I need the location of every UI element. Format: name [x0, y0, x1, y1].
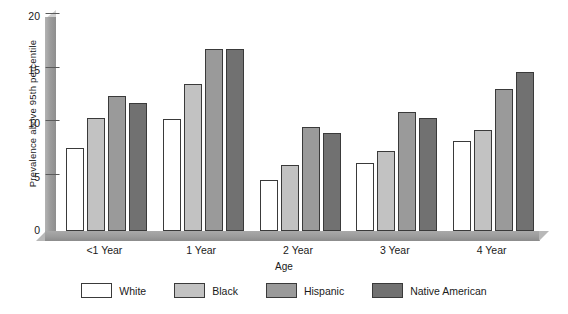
bar-black-4 [377, 151, 395, 231]
bar-hispanic-5 [495, 89, 513, 231]
bar-white-4 [356, 163, 374, 231]
bar-group-1 [66, 17, 147, 231]
bar-hispanic-1 [108, 96, 126, 231]
legend-swatch-icon [372, 283, 403, 298]
legend-swatch-icon [81, 283, 112, 298]
bar-group-5 [453, 17, 534, 231]
bar-hispanic-4 [398, 112, 416, 231]
bar-hispanic-2 [205, 49, 223, 231]
bar-native-1 [129, 103, 147, 231]
legend-label: White [119, 285, 146, 297]
bar-group-3 [260, 17, 341, 231]
bar-hispanic-3 [302, 127, 320, 231]
bar-group-4 [356, 17, 437, 231]
x-axis-floor-slab [45, 231, 540, 241]
legend-label: Hispanic [304, 285, 344, 297]
bar-white-5 [453, 141, 471, 231]
y-tick-label-5: 5 [20, 171, 40, 183]
bar-white-1 [66, 148, 84, 231]
plot-area [56, 17, 540, 231]
legend-item-hispanic[interactable]: Hispanic [266, 283, 344, 298]
bar-black-5 [474, 130, 492, 231]
legend: WhiteBlackHispanicNative American [0, 283, 568, 298]
x-axis-title: Age [0, 261, 568, 272]
legend-item-native-american[interactable]: Native American [372, 283, 486, 298]
bar-black-2 [184, 84, 202, 231]
bar-native-4 [419, 118, 437, 231]
bar-white-3 [260, 180, 278, 231]
bar-group-2 [163, 17, 244, 231]
bar-native-3 [323, 133, 341, 231]
y-tick-label-15: 15 [20, 64, 40, 76]
x-tick-label-4: 3 Year [346, 244, 443, 256]
bar-black-3 [281, 165, 299, 231]
bar-native-5 [516, 72, 534, 231]
y-tick-label-20: 20 [20, 10, 40, 22]
bar-white-2 [163, 119, 181, 231]
x-tick-label-5: 4 Year [443, 244, 540, 256]
x-tick-label-3: 2 Year [250, 244, 347, 256]
x-tick-label-2: 1 Year [153, 244, 250, 256]
y-tick-label-0: 0 [20, 224, 40, 236]
y-tick-label-10: 10 [20, 117, 40, 129]
bar-chart: Prevalence above 95th percentile 0510152… [0, 0, 568, 314]
legend-item-black[interactable]: Black [174, 283, 238, 298]
bar-black-1 [87, 118, 105, 231]
floor-right-bevel [539, 231, 549, 241]
legend-item-white[interactable]: White [81, 283, 146, 298]
x-tick-label-1: <1 Year [56, 244, 153, 256]
legend-swatch-icon [174, 283, 205, 298]
legend-swatch-icon [266, 283, 297, 298]
legend-label: Native American [410, 285, 486, 297]
bar-native-2 [226, 49, 244, 231]
legend-label: Black [212, 285, 238, 297]
